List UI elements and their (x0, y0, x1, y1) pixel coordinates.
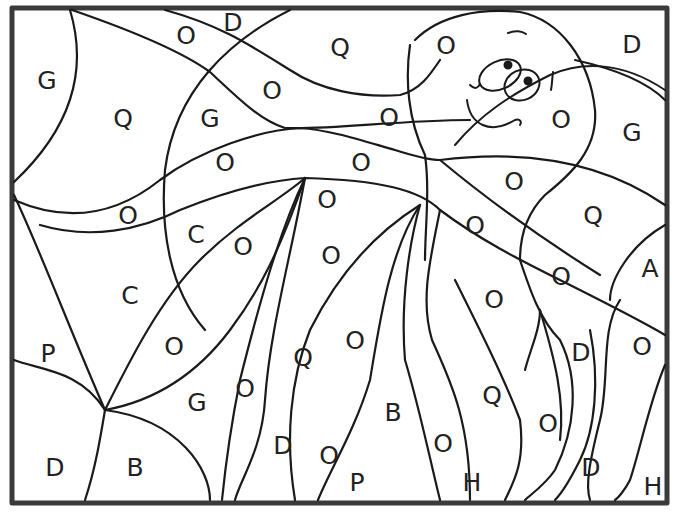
region-letter-label[interactable]: B (126, 455, 143, 480)
region-letter-label[interactable]: O (436, 33, 456, 58)
region-letter-label[interactable]: O (504, 169, 524, 194)
region-letter-label[interactable]: Q (330, 35, 350, 60)
region-letter-label[interactable]: G (622, 120, 641, 145)
region-letter-label[interactable]: D (622, 32, 641, 57)
region-letter-label[interactable]: Q (113, 106, 133, 131)
region-letter-label[interactable]: H (644, 474, 663, 499)
region-letter-label[interactable]: H (463, 470, 482, 495)
region-letter-label[interactable]: D (571, 340, 590, 365)
region-letter-label[interactable]: B (384, 400, 401, 425)
region-letter-label[interactable]: G (187, 390, 206, 415)
region-letter-label[interactable]: O (345, 328, 365, 353)
region-letter-label[interactable]: P (40, 341, 55, 366)
region-letter-label[interactable]: O (551, 107, 571, 132)
region-letter-label[interactable]: A (641, 256, 658, 281)
region-letter-label[interactable]: O (164, 334, 184, 359)
region-letter-label[interactable]: D (45, 455, 64, 480)
region-letter-label[interactable]: O (176, 23, 196, 48)
region-letter-label[interactable]: P (349, 470, 364, 495)
region-letter-label[interactable]: Q (293, 345, 313, 370)
region-letter-label[interactable]: O (433, 431, 453, 456)
region-letter-label[interactable]: O (235, 376, 255, 401)
region-letter-label[interactable]: D (223, 10, 242, 35)
region-letter-label[interactable]: Q (482, 383, 502, 408)
region-letter-label[interactable]: O (321, 243, 341, 268)
region-letter-label[interactable]: G (37, 68, 56, 93)
region-letter-label[interactable]: C (187, 222, 204, 247)
region-letter-label[interactable]: Q (583, 203, 603, 228)
region-letter-label[interactable]: D (273, 433, 292, 458)
region-letter-label[interactable]: O (484, 287, 504, 312)
region-letter-label[interactable]: O (233, 234, 253, 259)
region-letter-label[interactable]: O (118, 203, 138, 228)
region-letter-label[interactable]: O (351, 150, 371, 175)
region-letter-label[interactable]: C (121, 283, 138, 308)
region-letter-label[interactable]: O (317, 187, 337, 212)
region-letter-label[interactable]: D (581, 455, 600, 480)
region-letter-label[interactable]: O (379, 105, 399, 130)
region-letter-label[interactable]: O (538, 411, 558, 436)
region-letter-label[interactable]: O (632, 334, 652, 359)
region-letter-label[interactable]: O (319, 443, 339, 468)
region-letter-label[interactable]: G (200, 106, 219, 131)
region-letter-label[interactable]: O (215, 150, 235, 175)
region-letter-label[interactable]: O (551, 264, 571, 289)
region-letter-label[interactable]: O (262, 78, 282, 103)
coloring-page: DOQODGQGOOOGOOOOOQCOOOACOOPOOQDOGOBQODOO… (0, 0, 681, 517)
region-letter-label[interactable]: O (465, 213, 485, 238)
